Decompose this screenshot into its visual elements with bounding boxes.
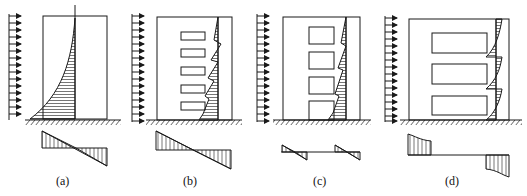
shear-wall-figure: (a) (b) (c) (d): [0, 0, 527, 196]
load-arrows-icon: [132, 14, 144, 122]
panel-label-c: (c): [313, 174, 326, 188]
load-arrows-icon: [385, 16, 397, 122]
panel-label-b: (b): [183, 174, 197, 188]
load-arrows-icon: [9, 14, 21, 120]
deflection-curve: [30, 18, 75, 119]
stress-diagram: [156, 131, 231, 169]
ground-hatch: [146, 120, 242, 125]
panel-d: [385, 16, 522, 177]
window-openings: [181, 32, 205, 110]
ground-hatch: [273, 120, 371, 125]
stress-diagram: [408, 134, 509, 177]
ground-hatch: [400, 120, 522, 125]
window-openings: [309, 27, 334, 120]
stress-diagram: [42, 131, 107, 166]
panel-b: [132, 14, 242, 169]
window-openings: [432, 33, 487, 115]
panel-a: [9, 5, 121, 166]
panel-label-d: (d): [445, 174, 459, 188]
stress-diagram: [281, 145, 360, 160]
wall-outline: [409, 19, 509, 120]
panel-c: [257, 14, 371, 160]
load-arrows-icon: [257, 14, 269, 122]
deflection-curve: [486, 19, 502, 120]
ground-hatch: [25, 120, 121, 125]
panel-label-a: (a): [56, 174, 69, 188]
